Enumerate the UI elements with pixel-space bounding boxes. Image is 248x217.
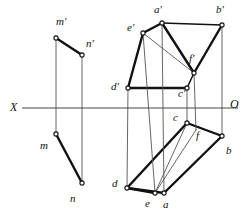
vertex-label-e-bot: e	[145, 198, 150, 209]
vertex-label-b-bot: b	[226, 145, 232, 156]
vertex-label-m-top: m'	[56, 16, 66, 27]
vertex-marker-n-top	[80, 53, 84, 57]
vertex-label-e-top: e'	[127, 22, 134, 33]
axis-label-o: O	[230, 98, 239, 110]
edge-e-f-bottom	[155, 130, 196, 193]
vertex-label-a-bot: a	[163, 199, 169, 210]
vertex-marker-b-top	[220, 23, 224, 27]
edge-a-prime-b-prime	[162, 23, 222, 25]
vertex-label-a-top: a'	[154, 4, 162, 15]
vertex-marker-c-bot	[185, 121, 189, 125]
edge-e-prime-d-prime	[128, 33, 143, 88]
edge-e-prime-a-prime	[143, 23, 162, 33]
vertex-marker-a-top	[160, 21, 164, 25]
vertex-marker-e-top	[141, 31, 145, 35]
edge-c-b-bottom	[187, 123, 222, 136]
projector-f	[194, 73, 196, 130]
vertex-marker-n-bot	[80, 181, 84, 185]
vertex-marker-d-bot	[125, 186, 129, 190]
vertex-label-m-bot: m	[40, 140, 48, 151]
vertex-marker-m-bot	[54, 132, 58, 136]
vertex-marker-b-bot	[220, 134, 224, 138]
geometry-figure: m'n'mna'b'e'f'd'c'cbfdea X O	[0, 0, 248, 217]
vertex-label-d-top: d'	[111, 81, 119, 92]
diagonal-e-prime-f-prime	[143, 33, 194, 73]
vertex-marker-d-top	[126, 86, 130, 90]
segment-m-n	[56, 134, 82, 183]
vertex-marker-c-top	[185, 86, 189, 90]
edge-f-prime-b-prime	[194, 25, 222, 73]
vertex-marker-a-bot	[162, 191, 166, 195]
projection-drawing-canvas	[0, 0, 248, 217]
projector-d	[127, 88, 128, 188]
vertex-marker-e-bot	[153, 191, 157, 195]
vertex-label-n-bot: n	[70, 193, 76, 204]
vertex-marker-m-top	[54, 36, 58, 40]
vertex-label-b-top: b'	[216, 4, 224, 15]
vertex-label-f-bot: f	[196, 130, 199, 141]
vertex-label-n-top: n'	[86, 38, 94, 49]
edge-e-c-bottom	[155, 123, 187, 193]
axis-label-x: X	[10, 101, 17, 113]
edge-a-prime-f-prime	[162, 23, 194, 73]
segment-m-prime-n-prime	[56, 38, 82, 55]
vertex-marker-f-top	[192, 71, 196, 75]
vertex-label-d-bot: d	[112, 178, 118, 189]
vertex-label-c-bot: c	[173, 112, 178, 123]
vertex-label-c-top: c'	[178, 88, 185, 99]
vertex-label-f-top: f'	[189, 53, 194, 64]
edge-b-a-bottom	[164, 136, 222, 193]
